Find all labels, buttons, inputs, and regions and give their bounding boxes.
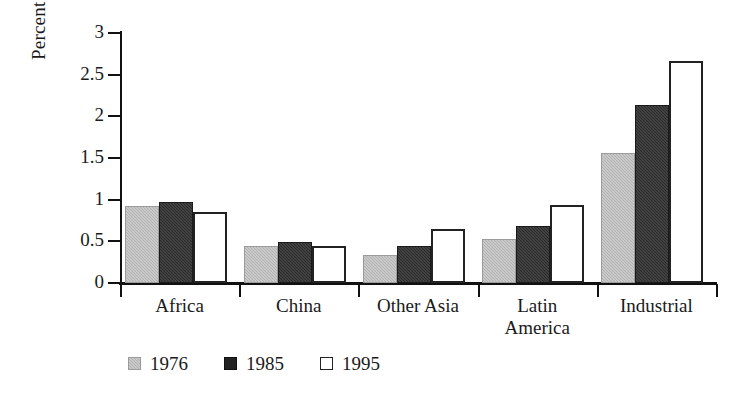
bar-latin-america-1995 bbox=[550, 205, 584, 283]
bar-group bbox=[125, 33, 227, 283]
legend-label-1976: 1976 bbox=[150, 354, 188, 373]
bar-industrial-1985 bbox=[635, 105, 669, 283]
y-axis-title-text: Percent Ag. GDP bbox=[28, 0, 50, 60]
x-axis-category-label: Industrial bbox=[587, 295, 726, 317]
bar-other-asia-1985 bbox=[397, 246, 431, 283]
y-axis-tick-label-text: 2 bbox=[64, 105, 104, 124]
legend-label-1985: 1985 bbox=[246, 354, 284, 373]
y-axis-tick-label-text: 0.5 bbox=[64, 230, 104, 249]
legend-swatch-1995 bbox=[320, 357, 333, 370]
plot-area bbox=[120, 33, 716, 283]
bar-group bbox=[482, 33, 584, 283]
y-axis-tick-label-text: 1.5 bbox=[64, 147, 104, 166]
bar-africa-1985 bbox=[159, 202, 193, 283]
bar-other-asia-1976 bbox=[363, 255, 397, 283]
bar-industrial-1995 bbox=[669, 61, 703, 284]
legend-item-1976: 1976 bbox=[128, 354, 188, 373]
bar-group bbox=[601, 33, 703, 283]
bar-other-asia-1995 bbox=[431, 229, 465, 283]
y-axis-title: Percent Ag. GDP bbox=[28, 0, 52, 60]
x-axis-category-label-line: America bbox=[468, 317, 607, 339]
y-axis-tick-label-text: 0 bbox=[64, 272, 104, 291]
legend-swatch-1985 bbox=[224, 357, 237, 370]
y-axis-tick-label-text: 2.5 bbox=[64, 64, 104, 83]
legend-item-1985: 1985 bbox=[224, 354, 284, 373]
bar-latin-america-1976 bbox=[482, 239, 516, 283]
y-axis-tick-label-text: 3 bbox=[64, 22, 104, 41]
legend-label-1995: 1995 bbox=[342, 354, 380, 373]
bar-africa-1976 bbox=[125, 206, 159, 284]
legend: 197619851995 bbox=[128, 352, 416, 374]
bar-africa-1995 bbox=[193, 212, 227, 283]
bar-china-1985 bbox=[278, 242, 312, 283]
bar-chart: Percent Ag. GDP 00.511.522.53 AfricaChin… bbox=[0, 0, 742, 398]
bar-latin-america-1985 bbox=[516, 226, 550, 284]
legend-item-1995: 1995 bbox=[320, 354, 380, 373]
bar-group bbox=[363, 33, 465, 283]
bar-china-1995 bbox=[312, 246, 346, 284]
legend-swatch-1976 bbox=[128, 357, 141, 370]
bar-group bbox=[244, 33, 346, 283]
bar-industrial-1976 bbox=[601, 153, 635, 283]
x-axis-category-label-line: Industrial bbox=[587, 295, 726, 317]
y-axis-tick-label-text: 1 bbox=[64, 189, 104, 208]
bar-china-1976 bbox=[244, 246, 278, 284]
